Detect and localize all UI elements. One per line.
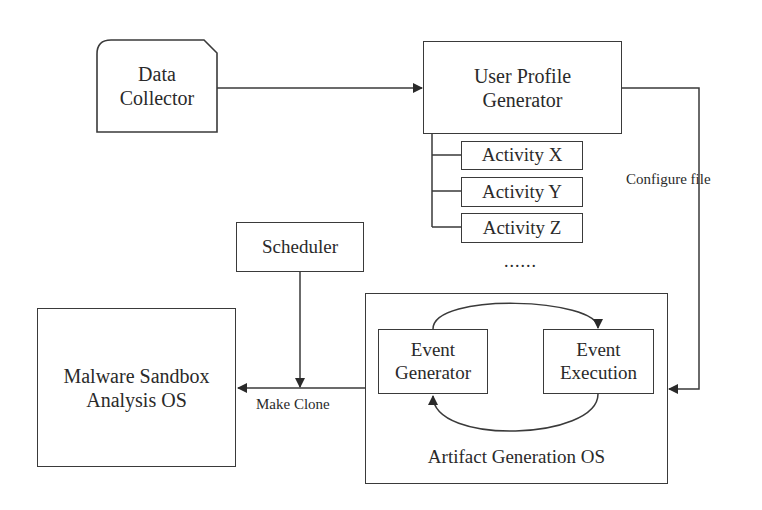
activity-y-node: Activity Y — [461, 177, 583, 207]
malware-sandbox-line1: Malware Sandbox — [63, 364, 209, 388]
malware-sandbox-node: Malware Sandbox Analysis OS — [37, 308, 236, 467]
activity-z-node: Activity Z — [461, 213, 583, 243]
event-execution-node: Event Execution — [543, 329, 654, 394]
event-generator-line2: Generator — [395, 362, 471, 385]
scheduler-node: Scheduler — [236, 222, 364, 272]
activity-z-label: Activity Z — [483, 217, 562, 240]
activity-x-node: Activity X — [461, 141, 583, 170]
event-execution-line2: Execution — [560, 362, 637, 385]
data-collector-node: Data Collector — [97, 40, 217, 132]
make-clone-label: Make Clone — [256, 396, 330, 413]
malware-sandbox-line2: Analysis OS — [63, 388, 209, 412]
activity-x-label: Activity X — [482, 144, 563, 167]
activity-tree-lines — [432, 134, 461, 227]
user-profile-generator-line1: User Profile — [474, 64, 571, 88]
artifact-generation-os-label: Artifact Generation OS — [428, 446, 605, 469]
user-profile-generator-line2: Generator — [474, 88, 571, 112]
user-profile-generator-node: User Profile Generator — [423, 41, 622, 134]
activity-ellipsis: ...... — [504, 251, 537, 272]
activity-y-label: Activity Y — [482, 181, 562, 204]
event-execution-line1: Event — [560, 339, 637, 362]
event-generator-node: Event Generator — [378, 329, 488, 394]
configure-file-label: Configure file — [626, 171, 711, 188]
scheduler-label: Scheduler — [262, 236, 338, 259]
event-generator-line1: Event — [395, 339, 471, 362]
data-collector-line1: Data — [120, 62, 194, 86]
data-collector-line2: Collector — [120, 86, 194, 110]
